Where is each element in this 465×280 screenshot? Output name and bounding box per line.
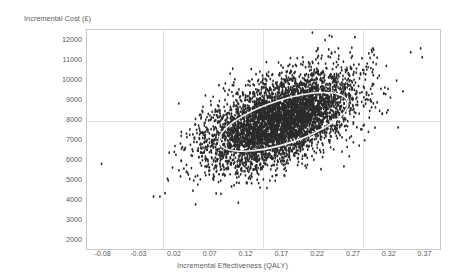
scatter-points [101,31,423,206]
x-axis-title: Incremental Effectiveness (QALY) [0,261,465,270]
plot-area [0,0,465,280]
cost-effectiveness-scatter-chart: Incremental Cost (£) 1200011000100009000… [0,0,465,280]
